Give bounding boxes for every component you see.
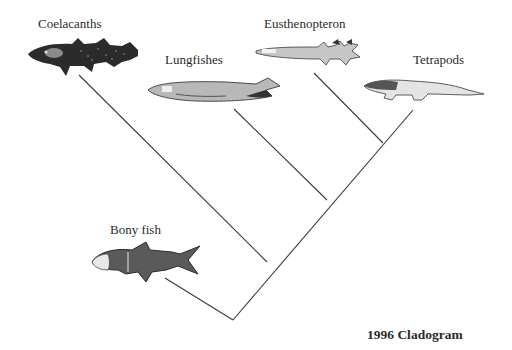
eusthenopteron-illustration-icon (254, 39, 362, 69)
coelacanth-illustration-icon (26, 34, 140, 78)
taxon-label-lungfishes: Lungfishes (165, 52, 223, 68)
taxon-label-coelacanths: Coelacanths (38, 16, 102, 32)
taxon-label-tetrapods: Tetrapods (413, 52, 464, 68)
diagram-caption: 1996 Cladogram (367, 327, 463, 343)
lungfish-illustration-icon (146, 76, 282, 106)
bony-fish-illustration-icon (88, 238, 206, 288)
tetrapod-illustration-icon (362, 76, 488, 106)
branch-lungfishes (234, 109, 327, 200)
taxon-label-bony-fish: Bony fish (110, 222, 161, 238)
taxon-label-eusthenopteron: Eusthenopteron (264, 16, 346, 32)
trunk-branch (233, 110, 413, 320)
